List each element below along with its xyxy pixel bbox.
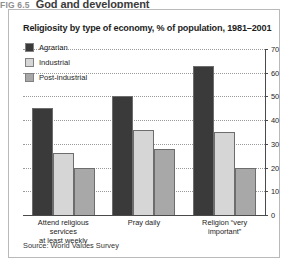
x-axis-label-line: Attend religious services bbox=[24, 218, 102, 236]
y-tick-label-10: 10 bbox=[271, 187, 279, 196]
bar bbox=[235, 168, 256, 215]
chart-title: Religiosity by type of economy, % of pop… bbox=[23, 23, 271, 33]
source-note: Source: World Values Survey bbox=[23, 241, 119, 250]
x-axis-label-line: Religion “very important” bbox=[186, 218, 264, 236]
legend-label-industrial: Industrial bbox=[39, 58, 70, 67]
legend-item-agrarian: Agrarian bbox=[25, 40, 87, 54]
y-tick-label-50: 50 bbox=[271, 92, 279, 101]
figure-heading: God and development bbox=[36, 0, 150, 8]
y-axis: 010203040506070 bbox=[265, 49, 289, 215]
y-tick-mark-30 bbox=[265, 144, 268, 145]
figure-header: FIG 6.5God and development bbox=[0, 0, 290, 8]
y-tick-mark-40 bbox=[265, 120, 268, 121]
chart-frame: Religiosity by type of economy, % of pop… bbox=[8, 9, 280, 258]
y-tick-mark-0 bbox=[265, 215, 268, 216]
bar bbox=[193, 66, 214, 215]
legend-swatch-agrarian bbox=[25, 43, 34, 52]
y-axis-line bbox=[265, 49, 266, 215]
y-tick-mark-60 bbox=[265, 73, 268, 74]
bar bbox=[133, 130, 154, 215]
legend-item-industrial: Industrial bbox=[25, 55, 87, 69]
legend-swatch-industrial bbox=[25, 58, 34, 67]
bar-group bbox=[112, 49, 175, 215]
x-axis-label: Religion “very important” bbox=[186, 218, 264, 245]
y-tick-label-60: 60 bbox=[271, 68, 279, 77]
legend-item-post-industrial: Post-industrial bbox=[25, 70, 87, 84]
y-tick-mark-20 bbox=[265, 168, 268, 169]
legend-label-agrarian: Agrarian bbox=[39, 43, 68, 52]
y-tick-label-70: 70 bbox=[271, 45, 279, 54]
y-tick-label-40: 40 bbox=[271, 116, 279, 125]
x-axis-label-line: Pray daily bbox=[105, 218, 183, 227]
legend-label-post-industrial: Post-industrial bbox=[39, 73, 87, 82]
y-tick-mark-10 bbox=[265, 191, 268, 192]
figure-number: FIG 6.5 bbox=[0, 0, 30, 8]
bar bbox=[214, 132, 235, 215]
chart-legend: Agrarian Industrial Post-industrial bbox=[25, 40, 87, 85]
bar-group bbox=[193, 49, 256, 215]
legend-swatch-post-industrial bbox=[25, 73, 34, 82]
bar bbox=[32, 108, 53, 215]
y-tick-label-30: 30 bbox=[271, 139, 279, 148]
bar bbox=[112, 96, 133, 215]
bar bbox=[74, 168, 95, 215]
bar bbox=[53, 153, 74, 215]
y-tick-mark-50 bbox=[265, 96, 268, 97]
gridline-0 bbox=[23, 215, 265, 216]
y-tick-label-0: 0 bbox=[271, 211, 275, 220]
bar bbox=[154, 149, 175, 215]
y-tick-mark-70 bbox=[265, 49, 268, 50]
y-tick-label-20: 20 bbox=[271, 163, 279, 172]
